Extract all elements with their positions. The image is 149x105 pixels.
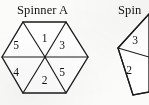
spinner-a-sector-upper-left-label: 5 bbox=[13, 39, 19, 51]
spinner-a-sector-lower-left-label: 4 bbox=[13, 66, 19, 78]
spinner-figure: Spinner A Spin 1 3 5 2 4 5 bbox=[0, 0, 149, 105]
spinner-b-sector-upper-label: 3 bbox=[132, 34, 138, 46]
spinner-a-sector-upper-right-label: 3 bbox=[59, 39, 65, 51]
spinner-b-sector-lower-label: 2 bbox=[126, 64, 132, 76]
spinner-b-outline bbox=[118, 14, 149, 95]
spinner-a-sector-top-label: 1 bbox=[42, 32, 48, 44]
spinner-a-sector-bottom-label: 2 bbox=[42, 74, 48, 86]
spinner-b-diagram: 3 2 bbox=[104, 0, 149, 105]
spinner-a-sector-lower-right-label: 5 bbox=[59, 66, 65, 78]
spinner-a-diagram: 1 3 5 2 4 5 bbox=[0, 0, 100, 105]
